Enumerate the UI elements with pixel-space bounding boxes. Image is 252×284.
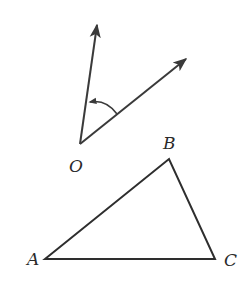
ray-one: [80, 25, 97, 144]
label-a: A: [25, 249, 39, 269]
geometry-figure: O A B C: [0, 0, 252, 284]
label-o: O: [69, 156, 83, 176]
label-b: B: [162, 133, 176, 153]
triangle-abc: A B C: [25, 133, 237, 270]
angle-arc-arrow: [90, 102, 117, 115]
angle-diagram: O: [69, 25, 186, 176]
label-c: C: [224, 250, 237, 270]
